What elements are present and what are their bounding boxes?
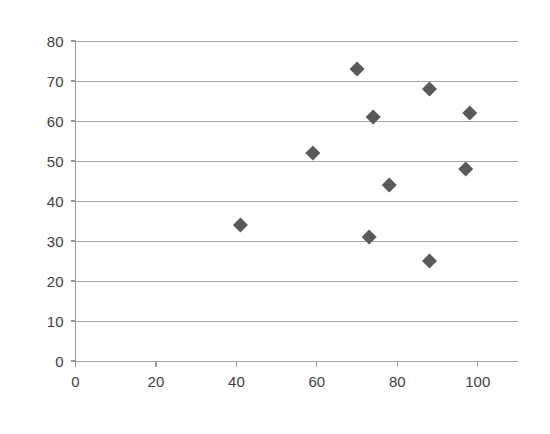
data-point-marker: [233, 218, 248, 233]
y-axis-ticks: [71, 41, 76, 361]
data-point-marker: [422, 82, 437, 97]
x-axis-tick-labels: 020406080100: [71, 373, 490, 390]
x-tick-label-100: 100: [465, 373, 490, 390]
y-tick-label-40: 40: [47, 193, 64, 210]
y-tick-label-50: 50: [47, 153, 64, 170]
data-point-marker: [350, 62, 365, 77]
y-tick-label-70: 70: [47, 73, 64, 90]
data-point-marker: [382, 178, 397, 193]
data-point-marker: [458, 162, 473, 177]
y-tick-label-20: 20: [47, 273, 64, 290]
x-tick-label-0: 0: [71, 373, 79, 390]
data-markers: [233, 62, 477, 269]
x-tick-label-60: 60: [309, 373, 326, 390]
data-point-marker: [366, 110, 381, 125]
scatter-chart: 01020304050607080 020406080100: [0, 0, 550, 434]
y-tick-label-10: 10: [47, 313, 64, 330]
y-tick-label-80: 80: [47, 33, 64, 50]
y-tick-label-60: 60: [47, 113, 64, 130]
x-tick-label-20: 20: [148, 373, 165, 390]
plot-area: 01020304050607080 020406080100: [0, 0, 550, 434]
y-axis-tick-labels: 01020304050607080: [47, 33, 64, 370]
data-point-marker: [422, 254, 437, 269]
y-tick-label-30: 30: [47, 233, 64, 250]
data-point-marker: [305, 146, 320, 161]
x-axis-ticks: [76, 361, 478, 367]
x-tick-label-80: 80: [389, 373, 406, 390]
x-tick-label-40: 40: [228, 373, 245, 390]
data-point-marker: [362, 230, 377, 245]
gridlines: [76, 41, 519, 361]
data-point-marker: [462, 106, 477, 121]
y-tick-label-0: 0: [55, 353, 63, 370]
